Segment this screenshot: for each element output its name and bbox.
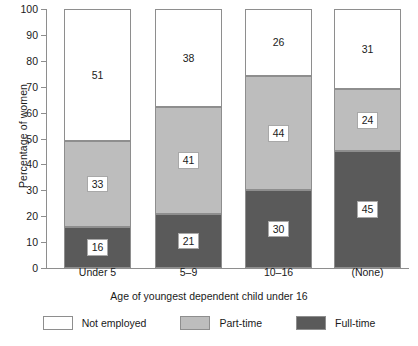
bar-value-label: 24: [357, 112, 379, 129]
y-tick-mark: [41, 268, 46, 269]
bar-group[interactable]: 452431: [334, 9, 401, 268]
bar-value-label: 41: [178, 152, 200, 169]
y-tick-label: 70: [26, 81, 38, 93]
legend-swatch: [296, 316, 326, 330]
legend-swatch: [180, 316, 210, 330]
bar-segment[interactable]: 16: [64, 227, 131, 268]
bar-value-label: 33: [87, 176, 109, 193]
bar-value-label: 38: [183, 53, 195, 64]
bar-value-label: 31: [362, 44, 374, 55]
y-tick-mark: [41, 87, 46, 88]
stacked-bar-chart: Percentage of women 01020304050607080901…: [0, 0, 418, 346]
bar-segment[interactable]: 51: [64, 9, 131, 141]
legend-label: Part-time: [219, 317, 262, 329]
bar-group[interactable]: 214138: [155, 9, 222, 268]
y-tick-mark: [41, 35, 46, 36]
bar-group[interactable]: 304426: [245, 9, 312, 268]
bar-value-label: 21: [178, 233, 200, 250]
bar-value-label: 16: [87, 239, 109, 256]
y-tick-label: 20: [26, 210, 38, 222]
bar-segment[interactable]: 41: [155, 107, 222, 213]
y-tick-label: 50: [26, 133, 38, 145]
legend-swatch: [43, 316, 73, 330]
y-tick-label: 10: [26, 236, 38, 248]
bar-value-label: 44: [268, 125, 290, 142]
bar-segment[interactable]: 26: [245, 9, 312, 76]
bar-segment[interactable]: 45: [334, 151, 401, 268]
y-tick-mark: [41, 9, 46, 10]
bar-segment[interactable]: 31: [334, 9, 401, 89]
legend-label: Full-time: [335, 317, 375, 329]
bar-value-label: 26: [273, 37, 285, 48]
bar-value-label: 45: [357, 201, 379, 218]
y-tick-label: 60: [26, 107, 38, 119]
y-tick-mark: [41, 190, 46, 191]
x-category-label: (None): [334, 266, 401, 278]
y-tick-mark: [41, 61, 46, 62]
y-tick-mark: [41, 164, 46, 165]
bar-segment[interactable]: 38: [155, 9, 222, 107]
x-category-label: 5–9: [155, 266, 222, 278]
y-tick-mark: [41, 139, 46, 140]
y-tick-label: 80: [26, 55, 38, 67]
y-tick-label: 100: [20, 3, 38, 15]
bar-segment[interactable]: 30: [245, 190, 312, 268]
y-tick-label: 90: [26, 29, 38, 41]
x-category-label: 10–16: [245, 266, 312, 278]
legend-label: Not employed: [82, 317, 147, 329]
y-tick-mark: [41, 216, 46, 217]
y-tick-label: 30: [26, 184, 38, 196]
x-category-label: Under 5: [64, 266, 131, 278]
y-tick-mark: [41, 113, 46, 114]
y-tick-mark: [41, 242, 46, 243]
legend-item[interactable]: Not employed: [43, 316, 147, 330]
chart-legend: Not employedPart-timeFull-time: [0, 316, 418, 330]
y-tick-label: 40: [26, 158, 38, 170]
bar-value-label: 51: [92, 70, 104, 81]
y-axis-line: [46, 9, 47, 268]
bar-value-label: 30: [268, 221, 290, 238]
x-axis-title: Age of youngest dependent child under 16: [0, 290, 418, 302]
bar-group[interactable]: 163351: [64, 9, 131, 268]
plot-area: 0102030405060708090100 16335121413830442…: [46, 9, 409, 268]
y-tick-label: 0: [32, 262, 38, 274]
legend-item[interactable]: Part-time: [180, 316, 262, 330]
bar-segment[interactable]: 24: [334, 89, 401, 151]
legend-item[interactable]: Full-time: [296, 316, 375, 330]
bar-segment[interactable]: 33: [64, 141, 131, 226]
bar-segment[interactable]: 21: [155, 214, 222, 268]
bar-segment[interactable]: 44: [245, 76, 312, 190]
